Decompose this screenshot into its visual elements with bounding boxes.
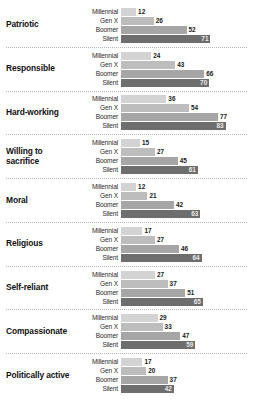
bar: 42 [121,385,174,393]
bar-value-label: 36 [168,95,175,103]
bar-value-label: 17 [144,227,151,235]
generation-label: Boomer [80,113,121,121]
bar-value-label: 33 [165,323,172,331]
bar-row: Gen X20 [80,367,247,375]
bar-value-label: 12 [138,8,145,16]
generation-label: Silent [80,166,121,174]
generation-label: Silent [80,254,121,262]
bar-track: 24 [121,52,247,60]
bar-row: Boomer52 [80,26,247,34]
group-bars: Millennial36Gen X54Boomer77Silent83 [80,95,247,130]
bar: 83 [121,122,226,130]
bar: 26 [121,17,154,25]
bar: 27 [121,148,155,156]
bar-value-label: 77 [220,113,227,121]
bar: 52 [121,26,187,34]
bar: 29 [121,314,158,322]
bar-value-label: 54 [191,104,198,112]
bar-row: Gen X33 [80,323,247,331]
bar-value-label: 52 [189,26,196,34]
bar: 36 [121,95,166,103]
bar-track: 52 [121,26,247,34]
bar: 61 [121,166,198,174]
bar-track: 12 [121,183,247,191]
category-label: Patriotic [6,20,80,30]
bar: 21 [121,192,147,200]
generation-label: Silent [80,79,121,87]
generation-label: Gen X [80,104,121,112]
bar-value-label: 65 [194,298,201,306]
bar-value-label: 20 [148,367,155,375]
bar-row: Gen X43 [80,61,247,69]
bar-track: 59 [121,341,247,349]
bar: 33 [121,323,163,331]
group-bars: Millennial17Gen X20Boomer37Silent42 [80,358,247,393]
bar-row: Millennial29 [80,314,247,322]
bar: 64 [121,254,202,262]
bar-track: 21 [121,192,247,200]
bar-value-label: 64 [193,254,200,262]
bar: 27 [121,236,155,244]
generation-label: Millennial [80,8,121,16]
generation-label: Millennial [80,139,121,147]
bar: 12 [121,183,136,191]
bar-track: 46 [121,245,247,253]
bar-row: Gen X37 [80,280,247,288]
bar: 37 [121,376,168,384]
bar-row: Millennial27 [80,271,247,279]
generation-label: Millennial [80,95,121,103]
generation-label: Millennial [80,183,121,191]
chart-group: MoralMillennial12Gen X21Boomer42Silent63 [6,178,247,222]
bar-track: 26 [121,17,247,25]
bar-row: Millennial17 [80,358,247,366]
generation-label: Boomer [80,157,121,165]
bar-track: 43 [121,61,247,69]
chart-group: ResponsibleMillennial24Gen X43Boomer66Si… [6,47,247,91]
bar-track: 65 [121,298,247,306]
bar-row: Silent71 [80,35,247,43]
bar-track: 27 [121,236,247,244]
generation-label: Gen X [80,367,121,375]
bar: 45 [121,157,178,165]
bar: 17 [121,227,142,235]
bar-value-label: 27 [157,236,164,244]
bar-row: Boomer37 [80,376,247,384]
bar-track: 54 [121,104,247,112]
bar: 17 [121,358,142,366]
bar: 77 [121,113,218,121]
category-label: Religious [6,239,80,249]
bar-row: Boomer51 [80,289,247,297]
bar-row: Gen X27 [80,148,247,156]
bar-row: Millennial36 [80,95,247,103]
generation-label: Gen X [80,17,121,25]
bar-value-label: 83 [216,122,223,130]
group-bars: Millennial12Gen X26Boomer52Silent71 [80,8,247,43]
bar-row: Silent42 [80,385,247,393]
bar-track: 63 [121,210,247,218]
bar-row: Millennial17 [80,227,247,235]
bar-row: Silent65 [80,298,247,306]
bar-track: 70 [121,79,247,87]
bar-row: Gen X21 [80,192,247,200]
bar-row: Boomer47 [80,332,247,340]
bar-row: Gen X26 [80,17,247,25]
bar-track: 42 [121,385,247,393]
bar: 20 [121,367,146,375]
chart-group: Hard-workingMillennial36Gen X54Boomer77S… [6,91,247,135]
generation-label: Boomer [80,245,121,253]
bar-row: Millennial15 [80,139,247,147]
category-label: Willing to sacrifice [6,147,80,167]
generation-label: Gen X [80,280,121,288]
bar: 43 [121,61,175,69]
bar-value-label: 63 [191,210,198,218]
bar-value-label: 46 [181,245,188,253]
bar-value-label: 21 [149,192,156,200]
chart-group: Willing to sacrificeMillennial15Gen X27B… [6,134,247,178]
generation-label: Millennial [80,314,121,322]
generation-label: Silent [80,35,121,43]
category-label: Politically active [6,371,80,381]
bar-value-label: 27 [157,148,164,156]
category-label: Compassionate [6,327,80,337]
bar-track: 27 [121,271,247,279]
generation-label: Silent [80,210,121,218]
